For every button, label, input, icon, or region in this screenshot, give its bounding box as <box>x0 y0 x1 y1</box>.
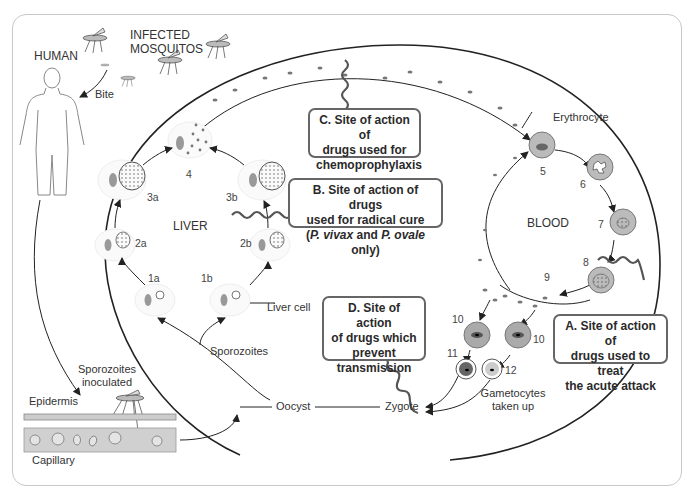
liver-cell-1a <box>135 284 175 316</box>
label-sporozoites: Sporozoites <box>210 345 268 358</box>
only-text: only) <box>351 243 380 257</box>
stage-1b: 1b <box>201 272 213 284</box>
stage-3a: 3a <box>147 191 159 203</box>
and-text: and <box>353 228 381 242</box>
erythrocyte-7 <box>610 209 636 235</box>
label-liver-cell: Liver cell <box>267 301 310 314</box>
human-figure <box>20 68 84 195</box>
drug-site-B-radical-cure: B. Site of action of drugs used for radi… <box>288 178 443 228</box>
label-sporozoites-inoculated: Sporozoites inoculated <box>72 363 142 388</box>
label-epidermis: Epidermis <box>29 395 78 408</box>
gametocyte-12 <box>482 359 502 379</box>
region-blood: BLOOD <box>527 217 569 231</box>
stage-8: 8 <box>583 256 589 268</box>
label-gametocytes-1: Gametocytes <box>478 387 548 400</box>
label-sporozoites-inoculated-2: inoculated <box>72 376 142 389</box>
stage-7: 7 <box>598 218 604 230</box>
label-capillary: Capillary <box>32 454 75 467</box>
drug-site-D-line2: of drugs which <box>330 331 418 346</box>
stage-2b: 2b <box>240 237 252 249</box>
erythrocyte-8 <box>588 267 614 293</box>
liver-cell-2b <box>250 229 290 261</box>
label-gametocytes-taken-up: Gametocytes taken up <box>478 387 548 412</box>
drug-site-C-line3: chemoprophylaxis <box>316 158 413 173</box>
liver-cell-2a <box>95 229 135 261</box>
drug-site-B-line1: B. Site of action of drugs <box>296 183 435 213</box>
stage-11: 11 <box>447 347 458 359</box>
drug-site-C-line1: C. Site of action of <box>316 113 413 143</box>
drug-site-D-line4: transmission <box>330 361 418 376</box>
blood-loop <box>486 152 528 290</box>
stage-1a: 1a <box>148 272 160 284</box>
drug-site-D-prevent-transmission: D. Site of action of drugs which prevent… <box>322 296 426 361</box>
label-zygote: Zygote <box>385 400 419 413</box>
gametocyte-10b <box>505 322 531 348</box>
stage-10a: 10 <box>452 313 464 325</box>
stage-5: 5 <box>540 165 546 177</box>
label-human: HUMAN <box>34 50 78 64</box>
stage-6: 6 <box>580 178 586 190</box>
liver-cell-1b <box>210 284 250 316</box>
label-erythrocyte: Erythrocyte <box>553 111 609 124</box>
label-mosquitos: MOSQUITOS <box>130 43 190 57</box>
drug-site-B-line3: (P. vivax and P. ovale only) <box>296 228 435 258</box>
liver-cell-3b <box>238 160 286 200</box>
label-oocyst: Oocyst <box>276 400 310 413</box>
species-p-vivax: P. vivax <box>310 228 353 242</box>
label-infected-mosquitos: INFECTED MOSQUITOS <box>130 29 190 57</box>
liver-cell-4-rupture <box>168 122 212 158</box>
species-p-ovale: P. ovale <box>381 228 425 242</box>
label-gametocytes-2: taken up <box>478 400 548 413</box>
label-sporozoites-inoculated-1: Sporozoites <box>72 363 142 376</box>
erythrocyte-5 <box>529 132 555 158</box>
label-infected: INFECTED <box>130 29 190 43</box>
stage-10b: 10 <box>533 333 545 345</box>
drug-site-A-line3: the acute attack <box>561 379 660 394</box>
erythrocyte-6 <box>587 154 613 180</box>
region-liver: LIVER <box>173 220 208 234</box>
stage-9: 9 <box>544 271 550 283</box>
drug-site-A-acute-attack: A. Site of action of drugs used to treat… <box>553 314 668 364</box>
gametocyte-10a <box>464 322 490 348</box>
drug-site-A-line2: drugs used to treat <box>561 349 660 379</box>
stage-3b: 3b <box>226 191 238 203</box>
drug-site-C-line2: drugs used for <box>316 143 413 158</box>
skin-capillary-section <box>24 414 176 452</box>
stage-2a: 2a <box>135 237 147 249</box>
drug-site-C-chemoprophylaxis: C. Site of action of drugs used for chem… <box>308 108 421 158</box>
label-bite: Bite <box>95 88 114 101</box>
gametocyte-11 <box>456 359 476 379</box>
drug-site-A-line1: A. Site of action of <box>561 319 660 349</box>
stage-12: 12 <box>505 364 517 376</box>
drug-site-B-line2: used for radical cure <box>296 213 435 228</box>
drug-site-D-line3: prevent <box>330 346 418 361</box>
stage-4: 4 <box>186 168 192 180</box>
drug-site-D-line1: D. Site of action <box>330 301 418 331</box>
liver-cell-3a <box>98 160 146 200</box>
